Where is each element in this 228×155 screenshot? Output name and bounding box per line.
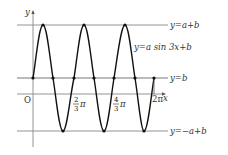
svg-text:π: π [79, 99, 86, 109]
svg-text:3: 3 [74, 105, 78, 113]
svg-text:π: π [119, 99, 126, 109]
curve-label: y=a sin 3x+b [133, 42, 192, 52]
svg-text:3: 3 [114, 105, 118, 113]
line-mid-label: y=b [169, 73, 187, 83]
tick-4-3-pi: 4 3 π [113, 96, 126, 113]
svg-text:2: 2 [74, 96, 78, 104]
x-axis-label: x [163, 93, 168, 103]
origin-label: O [24, 95, 31, 105]
svg-text:4: 4 [114, 96, 119, 104]
sine-graph: y O x y=a+b y=a sin 3x+b y=b y=−a+b 2 3 … [0, 0, 228, 155]
y-axis-arrow-icon [31, 10, 34, 14]
y-axis-label: y [24, 7, 30, 17]
line-max-label: y=a+b [169, 20, 200, 30]
line-min-label: y=−a+b [169, 126, 207, 136]
tick-2-pi: 2π [152, 94, 163, 104]
tick-2-3-pi: 2 3 π [73, 96, 86, 113]
